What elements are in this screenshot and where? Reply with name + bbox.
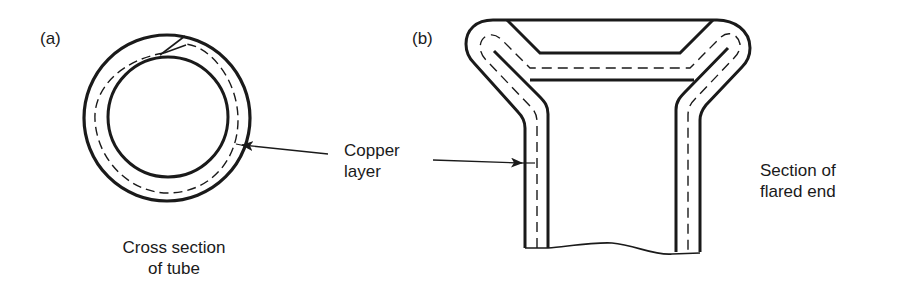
caption-a: Cross section of tube xyxy=(100,237,248,279)
copper-layer-callout: Copper layer xyxy=(344,140,400,182)
tube-inner-wall xyxy=(108,57,228,177)
caption-a-line1: Cross section xyxy=(100,237,248,258)
leader-line-b xyxy=(433,160,522,163)
caption-b-line2: flared end xyxy=(760,181,836,202)
caption-a-line2: of tube xyxy=(100,258,248,279)
panel-label-a: (a) xyxy=(40,28,61,49)
copper-layer-dashed xyxy=(95,44,238,193)
flare-upper-trapezoid xyxy=(507,20,713,53)
flared-end-section xyxy=(466,20,750,254)
flare-break-line xyxy=(525,243,700,254)
panel-label-b: (b) xyxy=(412,28,433,49)
caption-b-line1: Section of xyxy=(760,160,836,181)
seam-line xyxy=(160,36,185,55)
tube-cross-section xyxy=(84,35,250,201)
leader-line-a xyxy=(242,145,328,154)
flare-right-outer-wall xyxy=(700,20,750,252)
callout-line1: Copper xyxy=(344,140,400,161)
callout-line2: layer xyxy=(344,161,400,182)
caption-b: Section of flared end xyxy=(760,160,836,202)
